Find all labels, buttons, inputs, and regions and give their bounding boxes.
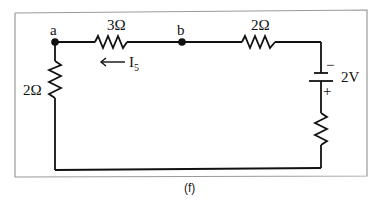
figure-caption: (f) — [184, 181, 195, 195]
circuit-diagram: a b 3Ω 2Ω 2Ω 2V − + I5 (f) — [0, 0, 380, 204]
battery-neg-label: − — [326, 57, 334, 73]
resistor-right — [315, 113, 327, 145]
resistor-2ohm-left — [49, 61, 61, 98]
resistor-2ohm-top — [242, 36, 275, 48]
resistor-2ohm-top-label: 2Ω — [251, 17, 270, 33]
figure-frame — [15, 10, 367, 177]
node-b-label: b — [177, 22, 185, 38]
current-arrow-icon — [101, 58, 125, 66]
battery-pos-label: + — [323, 83, 331, 99]
resistor-2ohm-left-label: 2Ω — [23, 82, 42, 98]
wire-top — [49, 36, 333, 170]
node-a-dot — [51, 38, 59, 46]
battery-voltage-label: 2V — [341, 69, 360, 85]
resistor-3ohm-label: 3Ω — [107, 17, 126, 33]
current-label: I5 — [129, 54, 139, 73]
resistor-3ohm — [95, 36, 127, 48]
node-a-label: a — [50, 22, 57, 38]
node-b-dot — [178, 38, 186, 46]
